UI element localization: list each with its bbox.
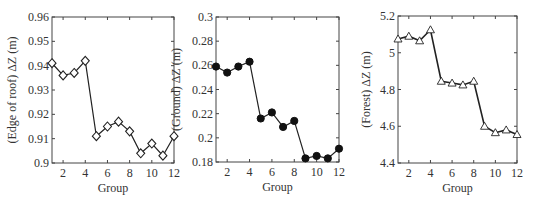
- y-tick-label: 0.28: [192, 34, 213, 48]
- chart-3: 246810124.44.64.855.2Group(Forest) ΔZ (m…: [359, 9, 523, 195]
- x-tick-label: 8: [471, 166, 477, 180]
- x-axis-label: Group: [262, 180, 293, 194]
- x-axis-label: Group: [442, 181, 473, 195]
- x-tick-label: 4: [82, 166, 88, 180]
- y-axis-label: (Forest) ΔZ (m): [359, 51, 373, 127]
- circle-marker: [279, 123, 286, 130]
- circle-marker: [324, 155, 331, 162]
- x-tick-label: 6: [269, 165, 275, 179]
- chart-1: 246810120.90.910.920.930.940.950.96Group…: [5, 10, 180, 195]
- y-tick-label: 0.22: [192, 107, 213, 121]
- data-line: [52, 61, 174, 156]
- y-tick-label: 5.2: [380, 9, 395, 23]
- y-tick-label: 0.91: [28, 132, 49, 146]
- x-tick-label: 12: [511, 166, 523, 180]
- y-tick-label: 4.4: [380, 156, 395, 170]
- circle-marker: [212, 63, 219, 70]
- circle-marker: [335, 145, 342, 152]
- plot-frame: [398, 16, 517, 163]
- triangle-marker: [426, 26, 434, 33]
- triangle-marker: [405, 32, 413, 39]
- x-tick-label: 12: [333, 165, 345, 179]
- y-tick-label: 4.8: [380, 83, 395, 97]
- y-tick-label: 0.92: [28, 107, 49, 121]
- circle-marker: [313, 152, 320, 159]
- chart-2: 246810120.180.20.220.240.260.280.3Group(…: [169, 10, 345, 194]
- x-tick-label: 8: [127, 166, 133, 180]
- figure-canvas: 246810120.90.910.920.930.940.950.96Group…: [0, 0, 546, 198]
- y-tick-label: 0.9: [34, 156, 49, 170]
- x-tick-label: 8: [291, 165, 297, 179]
- x-tick-label: 2: [60, 166, 66, 180]
- circle-marker: [224, 69, 231, 76]
- triangle-marker: [502, 126, 510, 133]
- x-tick-label: 10: [489, 166, 501, 180]
- y-tick-label: 0.26: [192, 58, 213, 72]
- triangle-marker: [437, 77, 445, 84]
- x-tick-label: 10: [311, 165, 323, 179]
- x-axis-label: Group: [98, 181, 129, 195]
- data-line: [216, 62, 339, 159]
- x-tick-label: 2: [406, 166, 412, 180]
- data-line: [398, 30, 517, 135]
- plot-frame: [216, 17, 339, 162]
- plot-frame: [52, 17, 174, 163]
- y-tick-label: 0.96: [28, 10, 49, 24]
- y-tick-label: 5: [389, 46, 395, 60]
- y-tick-label: 0.24: [192, 83, 213, 97]
- circle-marker: [235, 63, 242, 70]
- triangle-marker: [481, 122, 489, 129]
- y-tick-label: 0.94: [28, 59, 49, 73]
- circle-marker: [302, 155, 309, 162]
- x-tick-label: 10: [146, 166, 158, 180]
- triangle-marker: [470, 77, 478, 84]
- y-tick-label: 0.18: [192, 155, 213, 169]
- y-tick-label: 0.3: [198, 10, 213, 24]
- diamond-marker: [170, 132, 178, 141]
- x-tick-label: 4: [427, 166, 433, 180]
- circle-marker: [291, 117, 298, 124]
- y-tick-label: 4.6: [380, 119, 395, 133]
- x-tick-label: 6: [104, 166, 110, 180]
- y-tick-label: 0.95: [28, 34, 49, 48]
- y-tick-label: 0.2: [198, 131, 213, 145]
- x-tick-label: 12: [168, 166, 180, 180]
- x-tick-label: 2: [224, 165, 230, 179]
- circle-marker: [257, 115, 264, 122]
- x-tick-label: 4: [247, 165, 253, 179]
- y-axis-label: (Edge of roof) ΔZ (m): [5, 36, 19, 143]
- x-tick-label: 6: [449, 166, 455, 180]
- y-axis-label: (Ground) ΔZ (m): [169, 48, 183, 131]
- circle-marker: [268, 109, 275, 116]
- y-tick-label: 0.93: [28, 83, 49, 97]
- circle-marker: [246, 58, 253, 65]
